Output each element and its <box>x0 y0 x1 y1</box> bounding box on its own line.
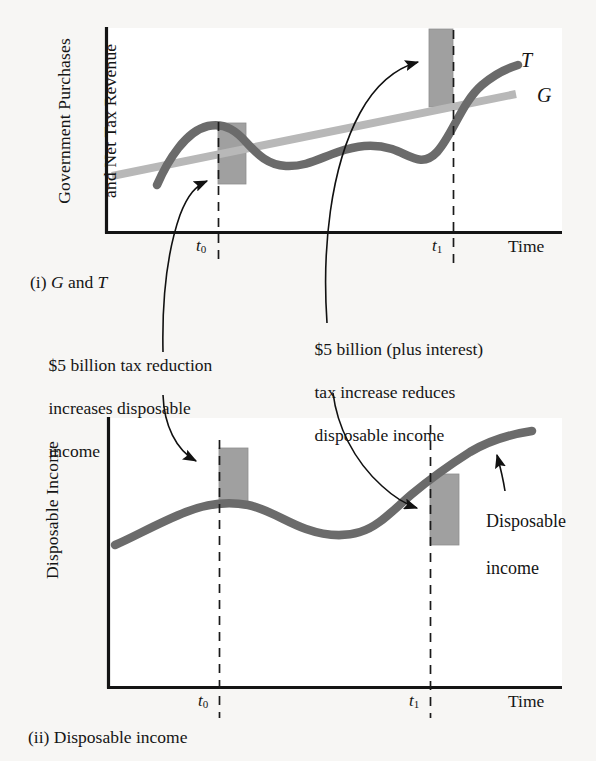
panel-i-series-label-g: G <box>537 83 551 107</box>
panel-i-tick-t0: t0 <box>196 236 206 257</box>
panel-i-tick-t1-subscript: 1 <box>437 243 443 255</box>
panel-i-shaded-block-t1 <box>429 29 453 107</box>
figure-root: Government Purchases and Net Tax Revenue… <box>0 0 596 761</box>
panel-ii-inline-label-line2: income <box>486 558 539 578</box>
panel-ii-tick-t0: t0 <box>198 691 208 712</box>
panel-ii-inline-label-line1: Disposable <box>486 511 566 531</box>
annotation-left-line1: $5 billion tax reduction <box>49 355 213 375</box>
panel-i-x-axis-label: Time <box>508 236 544 257</box>
panel-i-caption-g: G <box>51 272 64 292</box>
panel-ii-caption: (ii) Disposable income <box>28 727 187 748</box>
panel-i-y-axis-title-line2: and Net Tax Revenue <box>100 44 120 198</box>
panel-i-caption-prefix: (i) <box>30 272 51 292</box>
panel-i-caption-and: and <box>64 272 98 292</box>
panel-i-series-label-t: T <box>521 48 532 72</box>
panel-ii-shaded-block-t1 <box>430 474 459 545</box>
annotation-right-line1: $5 billion (plus interest) <box>315 339 484 359</box>
panel-ii-x-axis-label: Time <box>508 691 544 712</box>
panel-ii-inline-label: Disposable income <box>468 487 566 604</box>
panel-i-y-axis-title: Government Purchases and Net Tax Revenue <box>30 25 145 235</box>
annotation-left-line2: increases disposable <box>49 398 191 418</box>
panel-ii-tick-t1: t1 <box>409 691 419 712</box>
panel-i-y-axis-title-line1: Government Purchases <box>54 38 74 204</box>
panel-i-plot <box>105 27 562 265</box>
panel-i-caption-t: T <box>98 272 108 292</box>
panel-i-caption: (i) G and T <box>30 272 107 293</box>
annotation-right: $5 billion (plus interest) tax increase … <box>297 317 483 469</box>
panel-i-tick-t1: t1 <box>432 236 442 257</box>
panel-ii-shaded-block-t0 <box>219 448 248 506</box>
annotation-right-line3: disposable income <box>315 425 445 445</box>
panel-i-tick-t0-subscript: 0 <box>201 243 207 255</box>
panel-ii-tick-t0-subscript: 0 <box>203 698 209 710</box>
annotation-right-line2: tax increase reduces <box>315 382 456 402</box>
panel-ii-y-axis-title: Disposable Income <box>42 420 63 600</box>
panel-ii-tick-t1-subscript: 1 <box>414 698 420 710</box>
